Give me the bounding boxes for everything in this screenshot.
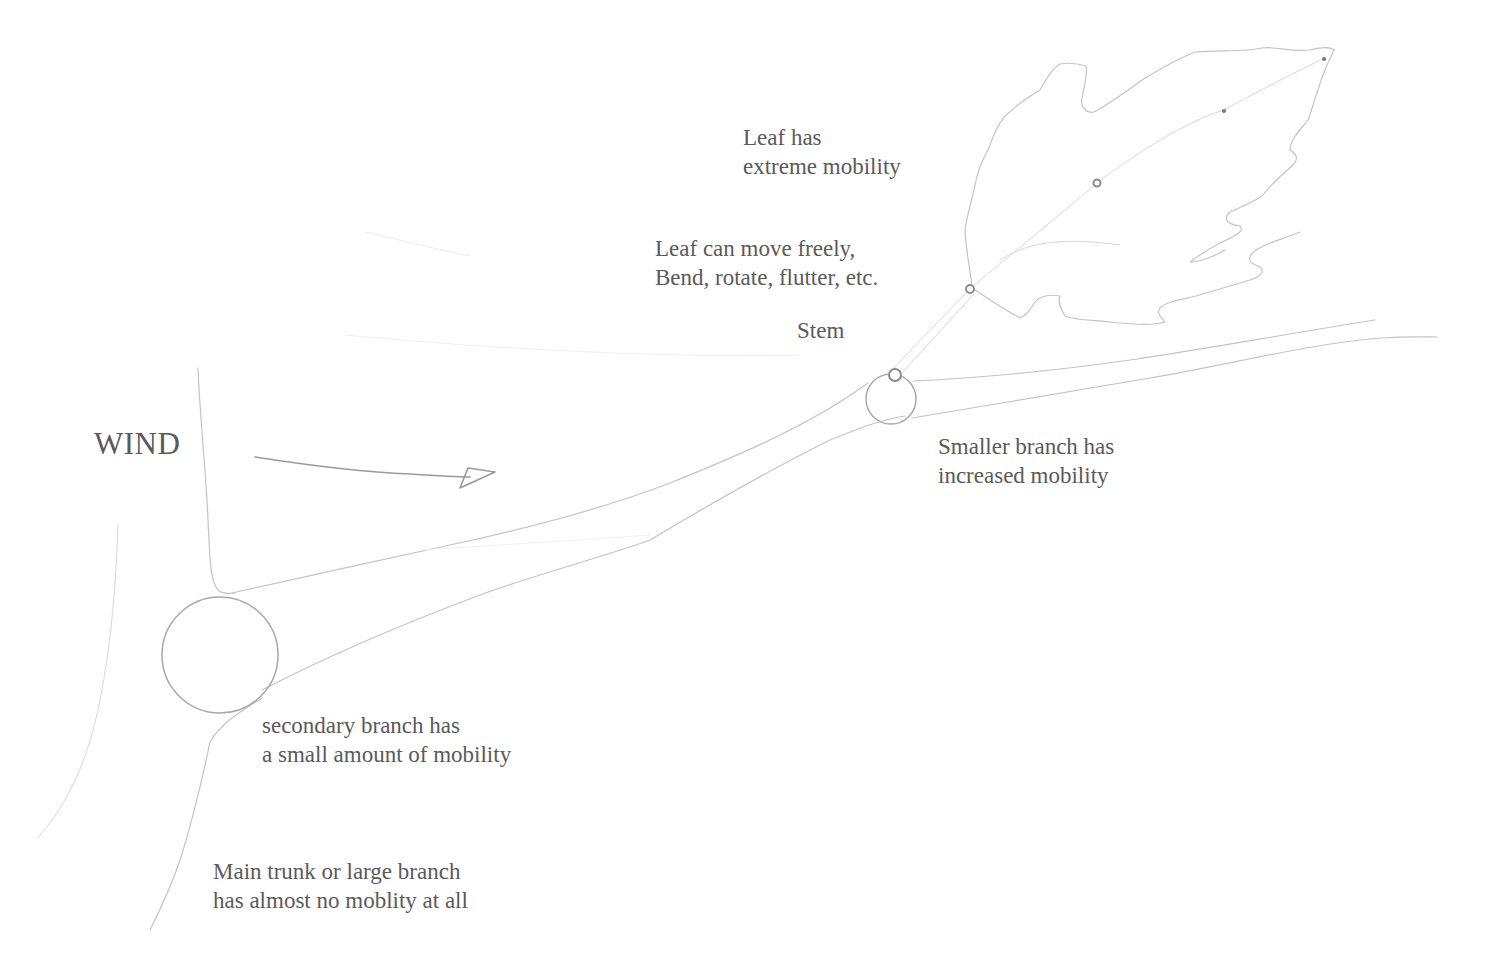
wind-arrow-head [460, 468, 495, 488]
tree-mobility-diagram: WIND Leaf has extreme mobility Leaf can … [0, 0, 1495, 955]
trunk-joint-circle [162, 597, 278, 713]
leaf-side-vein [1000, 241, 1120, 260]
main-trunk-label-line2: has almost no moblity at all [213, 886, 468, 915]
leaf-midrib [972, 58, 1325, 287]
leaf-motion-label-line1: Leaf can move freely, [655, 234, 878, 263]
smaller-branch-top-edge [913, 320, 1375, 381]
leaf-mid-joint-circle [1094, 180, 1101, 187]
secondary-branch-label-line1: secondary branch has [262, 711, 511, 740]
stem-label-line1: Stem [797, 316, 844, 345]
leaf-dot-2 [1322, 57, 1326, 61]
leaf-mobility-label-line2: extreme mobility [743, 152, 901, 181]
upper-trunk-contour [198, 368, 235, 594]
leaf-outline-right [1190, 50, 1334, 262]
leaf-outline-upper [965, 48, 1334, 286]
smaller-branch-label-line1: Smaller branch has [938, 432, 1114, 461]
trunk-left-contour [38, 525, 118, 838]
leaf-dot-1 [1222, 109, 1226, 113]
smaller-branch-bottom-edge [912, 337, 1437, 418]
secondary-branch-label-line2: a small amount of mobility [262, 740, 511, 769]
leaf-outline-lower [975, 232, 1300, 324]
main-trunk-label: Main trunk or large branch has almost no… [213, 857, 468, 915]
smaller-branch-label-line2: increased mobility [938, 461, 1114, 490]
secondary-branch-label: secondary branch has a small amount of m… [262, 711, 511, 769]
secondary-branch-bottom-edge [262, 416, 905, 690]
ghost-mark-3 [420, 535, 650, 550]
stem-line-left [893, 293, 966, 369]
secondary-branch-top-edge [232, 383, 868, 593]
smaller-branch-label: Smaller branch has increased mobility [938, 432, 1114, 490]
main-trunk-label-line1: Main trunk or large branch [213, 857, 468, 886]
leaf-base-joint-circle [966, 285, 974, 293]
ghost-mark-2 [345, 335, 800, 356]
leaf-mobility-label: Leaf has extreme mobility [743, 123, 901, 181]
leaf-mobility-label-line1: Leaf has [743, 123, 901, 152]
stem-label: Stem [797, 316, 844, 345]
smaller-branch-joint-circle [866, 374, 916, 424]
wind-arrow-shaft [255, 457, 470, 477]
stem-line-right [903, 294, 974, 372]
stem-joint-circle [889, 369, 901, 381]
leaf-motion-label: Leaf can move freely, Bend, rotate, flut… [655, 234, 878, 292]
leaf-motion-label-line2: Bend, rotate, flutter, etc. [655, 263, 878, 292]
ghost-mark-1 [365, 232, 470, 256]
wind-label: WIND [94, 427, 180, 461]
